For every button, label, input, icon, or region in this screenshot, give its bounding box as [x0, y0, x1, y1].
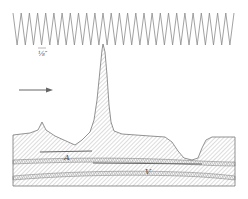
scale-label: ⅛″ — [38, 50, 48, 58]
cross-section: A V — [13, 44, 235, 186]
timing-waveform — [13, 13, 234, 45]
scale-marker: ⅛″ — [38, 48, 48, 58]
direction-arrow-icon — [19, 88, 53, 93]
diagram-figure: ⅛″ A V — [0, 0, 248, 199]
layer-label-a: A — [63, 153, 70, 162]
